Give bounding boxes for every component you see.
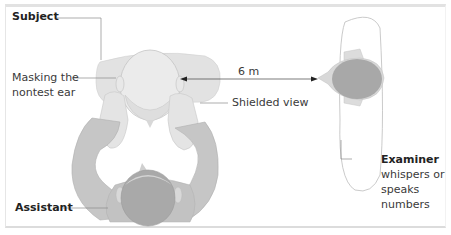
shielded-view-label: Shielded view — [232, 96, 308, 109]
assistant-label: Assistant — [15, 201, 73, 214]
examiner-desc-line2: speaks — [381, 183, 419, 196]
masking-label-line2: nontest ear — [12, 86, 75, 99]
examiner-desc-line1: whispers or — [381, 168, 445, 181]
masking-label-line1: Masking the — [12, 71, 79, 84]
subject-label: Subject — [12, 10, 59, 23]
examiner-label: Examiner — [381, 153, 439, 166]
distance-label: 6 m — [238, 65, 259, 78]
examiner-figure — [318, 17, 384, 191]
examiner-desc-line3: numbers — [381, 198, 430, 211]
